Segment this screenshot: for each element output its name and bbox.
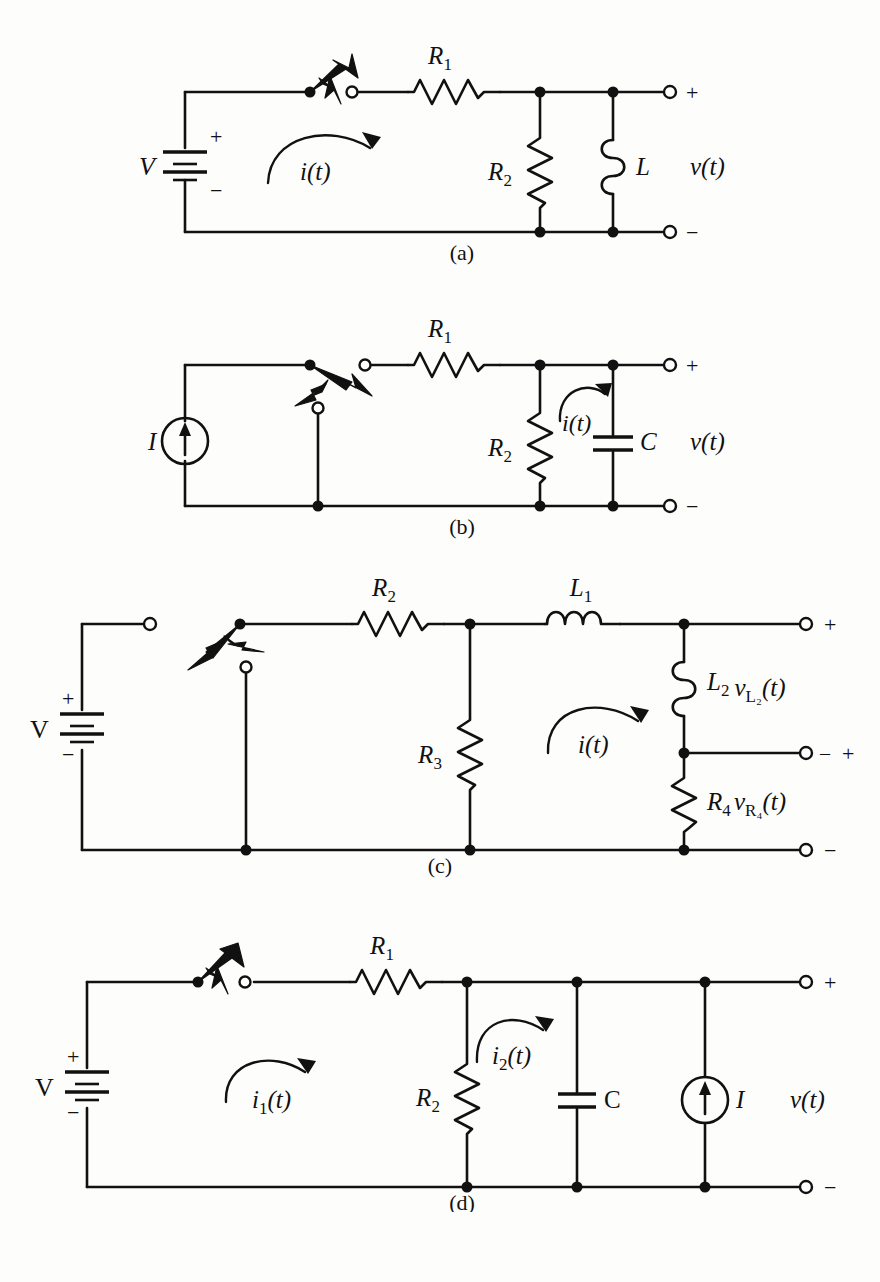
label-source-minus-d: − [67, 1100, 79, 1125]
label-r2-a: R2 [487, 158, 512, 190]
label-l-a: L [635, 153, 650, 180]
terminal-b-minus[interactable] [664, 500, 676, 512]
label-r2-d: R2 [415, 1084, 440, 1116]
label-loop-current-a: i(t) [300, 158, 331, 186]
label-a-output: v(t) [690, 153, 725, 181]
label-source-plus-d: + [67, 1044, 79, 1069]
label-b-out-plus: + [686, 353, 698, 378]
label-d-output: v(t) [790, 1086, 825, 1114]
label-r4-c: R4 [706, 788, 731, 820]
label-source-minus-c: − [62, 742, 74, 767]
label-d-out-plus: + [824, 970, 836, 995]
label-c-d: C [604, 1086, 621, 1113]
caption-d: (d) [449, 1190, 475, 1212]
resistor-r1-a [408, 80, 500, 104]
switch-b[interactable] [295, 360, 372, 414]
terminal-b-plus[interactable] [664, 359, 676, 371]
terminal-a-minus[interactable] [664, 226, 676, 238]
terminal-d-minus[interactable] [800, 1181, 812, 1193]
capacitor-c-d [558, 982, 596, 1187]
circuit-panel-c: V + − R2 L1 R3 L2 [0, 578, 880, 878]
node-b-switch-bottom [313, 501, 324, 512]
circuit-panel-d: V + − R1 R2 C I [0, 912, 880, 1212]
label-source-plus-c: + [62, 686, 74, 711]
terminal-c-mid[interactable] [800, 747, 812, 759]
label-c-out-mid-plus: + [842, 741, 854, 766]
terminal-c-minus-bottom[interactable] [800, 844, 812, 856]
current-source-d [682, 982, 728, 1187]
inductor-l2-c [673, 624, 696, 753]
label-source-c: V [30, 715, 49, 744]
caption-a: (a) [450, 240, 474, 265]
label-b-output: v(t) [690, 428, 725, 456]
label-c-out-mid-minus: – [819, 742, 831, 764]
label-a-out-minus: − [686, 220, 698, 245]
label-source-d: V [35, 1073, 54, 1102]
resistor-r1-d [350, 970, 442, 994]
node-c-branch-bot [679, 845, 690, 856]
label-loop-current-d2: i2(t) [492, 1042, 531, 1074]
voltage-source-battery-c [60, 714, 104, 742]
label-source-a: V [139, 152, 158, 181]
label-r3-c: R3 [417, 741, 442, 773]
resistor-r3-c [458, 624, 482, 850]
label-source-minus-a: − [210, 178, 222, 203]
node-c-switch-bottom [241, 845, 252, 856]
label-r2-c: R2 [371, 578, 396, 606]
label-source-plus-a: + [210, 124, 222, 149]
resistor-r2-c [352, 612, 444, 636]
label-l1-c: L1 [569, 578, 592, 606]
terminal-d-plus[interactable] [800, 976, 812, 988]
label-current-source-d: I [735, 1086, 746, 1113]
circuit-panel-a: V + − R1 R2 L + − v(t) [0, 20, 880, 270]
switch-c[interactable] [144, 618, 264, 673]
switch-a[interactable] [305, 54, 359, 104]
resistor-r2-d [455, 982, 479, 1187]
label-c-output-r4: vR₄(t) [734, 788, 786, 820]
inductor-l1-c [545, 612, 620, 624]
voltage-source-battery-a [163, 152, 207, 180]
resistor-r2-a [528, 92, 552, 232]
label-r2-b: R2 [487, 434, 512, 466]
switch-d[interactable] [193, 943, 251, 994]
label-source-b: I [147, 428, 158, 455]
label-loop-current-b: i(t) [562, 410, 591, 436]
label-r1-b: R1 [427, 318, 452, 347]
label-c-output-l2: vL₂(t) [734, 674, 785, 706]
label-c-out-minus-bottom: − [824, 838, 836, 863]
figure-sheet: V + − R1 R2 L + − v(t) [0, 0, 880, 1282]
label-loop-current-c: i(t) [578, 731, 609, 759]
caption-c: (c) [428, 853, 452, 878]
label-d-out-minus: − [824, 1175, 836, 1200]
terminal-a-plus[interactable] [664, 86, 676, 98]
label-loop-current-d1: i1(t) [252, 1086, 291, 1118]
resistor-r2-b [528, 365, 552, 506]
label-r1-d: R1 [369, 932, 394, 964]
label-c-b: C [640, 428, 657, 455]
label-a-out-plus: + [686, 80, 698, 105]
label-r1-a: R1 [427, 42, 452, 74]
voltage-source-battery-d [65, 1072, 109, 1100]
caption-b: (b) [449, 514, 475, 539]
terminal-c-plus-top[interactable] [800, 618, 812, 630]
circuit-panel-b: I R1 R2 C + − v(t) [0, 318, 880, 553]
label-l2-c: L2 [706, 668, 729, 700]
label-c-out-plus-top: + [824, 612, 836, 637]
resistor-r1-b [408, 353, 500, 377]
current-source-b [162, 418, 208, 464]
resistor-r4-c [672, 753, 696, 850]
inductor-l-a [602, 92, 625, 232]
label-b-out-minus: − [686, 494, 698, 519]
